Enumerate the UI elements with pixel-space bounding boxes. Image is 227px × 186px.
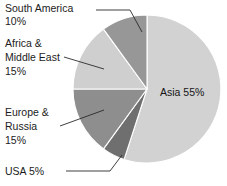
pie-chart-figure: South America 10% Africa & Middle East 1… — [0, 0, 227, 186]
callout-label-europe-russia-line1: Europe & — [5, 106, 49, 118]
callout-label-south-america-line2: 10% — [5, 15, 26, 27]
callout-label-africa-middle-east-line2: Middle East — [5, 51, 60, 63]
inside-labels-group: Asia 55% — [160, 86, 204, 98]
callout-labels-group: South America 10% Africa & Middle East 1… — [5, 2, 73, 177]
slice-label-asia: Asia 55% — [160, 86, 204, 98]
callout-label-south-america-line1: South America — [5, 2, 73, 14]
callout-label-africa-middle-east-line1: Africa & — [5, 37, 42, 49]
callout-label-europe-russia-line3: 15% — [5, 134, 26, 146]
leader-line-usa — [66, 155, 122, 171]
callout-label-usa: USA 5% — [5, 165, 44, 177]
callout-label-africa-middle-east-line3: 15% — [5, 65, 26, 77]
pie-chart-canvas: South America 10% Africa & Middle East 1… — [0, 0, 227, 186]
callout-label-europe-russia-line2: Russia — [5, 120, 37, 132]
